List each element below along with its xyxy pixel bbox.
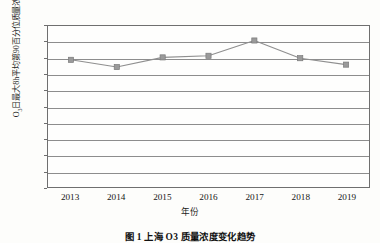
data-line-chart bbox=[48, 26, 369, 187]
figure-caption: 图 1 上海 O3 质量浓度变化趋势 bbox=[0, 229, 380, 243]
x-axis-tick-label: 2017 bbox=[235, 192, 275, 202]
x-axis-tick-label: 2016 bbox=[189, 192, 229, 202]
x-axis-tick-label: 2019 bbox=[327, 192, 367, 202]
data-markers bbox=[68, 38, 348, 70]
x-axis-tick-label: 2015 bbox=[142, 192, 182, 202]
y-axis-title-body: 日最大8h平均第90百分位质量浓度值/（μg/m bbox=[12, 0, 21, 109]
x-axis-title: 年份 bbox=[0, 205, 380, 217]
x-axis-tick-label: 2013 bbox=[50, 192, 90, 202]
data-point-marker bbox=[68, 57, 73, 62]
y-axis-title-prefix: O bbox=[12, 111, 21, 117]
y-axis-title-subscript: 3 bbox=[17, 109, 23, 112]
data-point-marker bbox=[343, 62, 348, 67]
y-axis-title: O3日最大8h平均第90百分位质量浓度值/（μg/m3） bbox=[9, 0, 23, 119]
x-axis-tick-label: 2014 bbox=[96, 192, 136, 202]
data-point-marker bbox=[252, 38, 257, 43]
y-axis-tick-mark bbox=[44, 188, 47, 189]
data-point-marker bbox=[114, 64, 119, 69]
x-axis-tick-label: 2018 bbox=[281, 192, 321, 202]
data-point-marker bbox=[160, 55, 165, 60]
plot-area bbox=[47, 25, 370, 188]
data-point-marker bbox=[298, 56, 303, 61]
data-point-marker bbox=[206, 53, 211, 58]
